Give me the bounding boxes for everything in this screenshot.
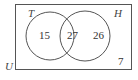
set-t-label: T: [28, 7, 35, 19]
outside-count: 7: [118, 55, 124, 67]
universe-label: U: [5, 60, 14, 72]
venn-diagram: T H U 15 27 26 7: [0, 0, 138, 80]
intersection-count: 27: [67, 29, 79, 41]
t-only-count: 15: [39, 29, 51, 41]
h-only-count: 26: [93, 29, 105, 41]
set-h-label: H: [113, 7, 123, 19]
